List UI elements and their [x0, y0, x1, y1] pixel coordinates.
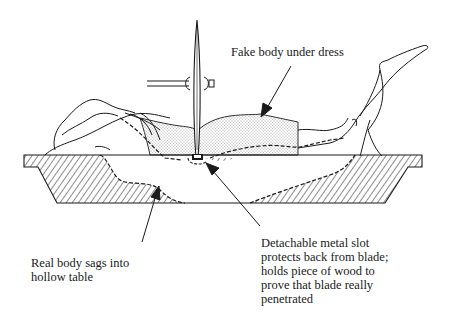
- label-slot-line3: holds piece of wood to: [261, 264, 388, 278]
- label-real-body-line1: Real body sags into: [31, 256, 129, 270]
- label-real-body-line2: hollow table: [31, 270, 129, 284]
- label-slot-line4: prove that blade really: [261, 278, 388, 292]
- hollow-table: [24, 155, 422, 203]
- fake-legs: [298, 45, 428, 156]
- label-fake-body: Fake body under dress: [231, 45, 344, 59]
- label-slot-line5: penetrated: [261, 292, 388, 306]
- label-slot-line2: protects back from blade;: [261, 250, 388, 264]
- label-metal-slot: Detachable metal slot protects back from…: [261, 236, 388, 306]
- fake-body: [120, 114, 345, 160]
- label-slot-line1: Detachable metal slot: [261, 236, 388, 250]
- label-real-body: Real body sags into hollow table: [31, 256, 129, 284]
